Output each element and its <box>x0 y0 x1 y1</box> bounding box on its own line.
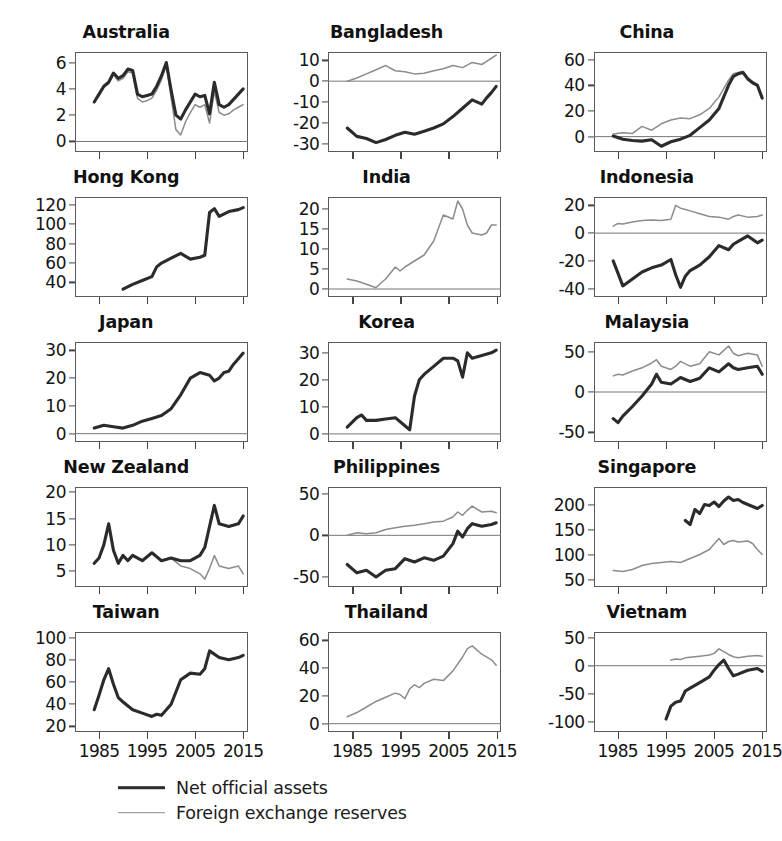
series-net-official-assets-singapore <box>685 497 762 525</box>
ytick-australia-0: 0 <box>56 131 75 151</box>
series-foreign-exchange-reserves-philippines <box>348 506 497 535</box>
xtick-mark-australia-3 <box>243 152 244 159</box>
ytick-australia-2: 4 <box>56 79 75 99</box>
legend-line-swatch-foreign-exchange-reserves <box>118 807 165 818</box>
ytick-taiwan-2: 60 <box>45 672 75 692</box>
panel-malaysia: Malaysia-50050 <box>521 312 781 457</box>
legend-label-net-official-assets: Net official assets <box>176 778 328 798</box>
ytick-japan-0: 0 <box>56 424 75 444</box>
xtick-mark-vietnam-3 <box>762 732 763 739</box>
xtick-mark-korea-0 <box>352 442 353 449</box>
xtick-mark-indonesia-3 <box>762 297 763 304</box>
xtick-mark-singapore-0 <box>618 587 619 594</box>
plot-area-singapore: 50100150200 <box>594 487 767 587</box>
ytick-china-0: 0 <box>574 127 593 147</box>
xtick-mark-malaysia-2 <box>714 442 715 449</box>
plot-area-japan: 0102030 <box>75 342 248 442</box>
ytick-new-zealand-3: 20 <box>45 482 75 502</box>
ytick-hong-kong-2: 80 <box>45 234 75 254</box>
panel-title-bangladesh: Bangladesh <box>260 22 512 42</box>
xtick-mark-australia-0 <box>99 152 100 159</box>
ytick-vietnam-1: -50 <box>558 684 593 704</box>
series-foreign-exchange-reserves-malaysia <box>613 346 762 376</box>
series-foreign-exchange-reserves-indonesia <box>613 205 762 226</box>
xtick-mark-korea-1 <box>400 442 401 449</box>
series-net-official-assets-japan <box>94 353 243 428</box>
ytick-taiwan-3: 80 <box>45 650 75 670</box>
legend-entry-foreign-exchange-reserves: Foreign exchange reserves <box>118 800 538 825</box>
panel-title-taiwan: Taiwan <box>0 602 252 622</box>
x-axis-vietnam: 1985199520052015 <box>594 732 767 772</box>
ytick-bangladesh-2: -10 <box>293 92 328 112</box>
xtick-label-vietnam-3: 2015 <box>742 741 782 761</box>
xtick-mark-india-1 <box>400 297 401 304</box>
panel-vietnam: Vietnam-100-500501985199520052015 <box>521 602 781 747</box>
panel-grid: Australia0246Bangladesh-30-20-10010China… <box>0 22 781 802</box>
series-foreign-exchange-reserves-singapore <box>613 539 762 572</box>
ytick-indonesia-1: -20 <box>558 251 593 271</box>
plot-lines-japan <box>75 342 248 442</box>
xtick-mark-new-zealand-2 <box>195 587 196 594</box>
ytick-hong-kong-3: 100 <box>35 214 75 234</box>
series-net-official-assets-australia <box>94 63 243 120</box>
xtick-mark-indonesia-2 <box>714 297 715 304</box>
xtick-mark-hong-kong-0 <box>99 297 100 304</box>
xtick-mark-philippines-0 <box>352 587 353 594</box>
panel-title-singapore: Singapore <box>521 457 773 477</box>
plot-lines-new-zealand <box>75 487 248 587</box>
plot-area-indonesia: -40-20020 <box>594 197 767 297</box>
xtick-label-thailand-1: 1995 <box>380 741 420 761</box>
ytick-malaysia-1: 0 <box>574 382 593 402</box>
series-net-official-assets-hong-kong <box>123 208 243 290</box>
plot-lines-hong-kong <box>75 197 248 297</box>
panel-title-australia: Australia <box>0 22 252 42</box>
xtick-label-taiwan-3: 2015 <box>223 741 263 761</box>
ytick-singapore-0: 50 <box>564 570 594 590</box>
plot-area-philippines: -50050 <box>328 487 501 587</box>
plot-area-australia: 0246 <box>75 52 248 152</box>
xtick-mark-malaysia-1 <box>666 442 667 449</box>
ytick-japan-2: 20 <box>45 368 75 388</box>
series-net-official-assets-taiwan <box>94 651 243 717</box>
ytick-indonesia-2: 0 <box>574 223 593 243</box>
xtick-mark-thailand-0 <box>352 732 353 739</box>
xtick-label-vietnam-0: 1985 <box>597 741 637 761</box>
xtick-mark-taiwan-1 <box>147 732 148 739</box>
xtick-mark-taiwan-2 <box>195 732 196 739</box>
ytick-japan-1: 10 <box>45 396 75 416</box>
series-foreign-exchange-reserves-china <box>613 71 762 134</box>
ytick-singapore-3: 200 <box>554 495 594 515</box>
panel-title-indonesia: Indonesia <box>521 167 773 187</box>
ytick-china-2: 40 <box>564 75 594 95</box>
xtick-label-vietnam-1: 1995 <box>646 741 686 761</box>
xtick-mark-indonesia-1 <box>666 297 667 304</box>
series-foreign-exchange-reserves-vietnam <box>671 649 762 660</box>
plot-area-thailand: 0204060 <box>328 632 501 732</box>
ytick-australia-1: 2 <box>56 105 75 125</box>
panel-row-5: Taiwan204060801001985199520052015Thailan… <box>0 602 781 802</box>
ytick-philippines-1: 0 <box>309 525 328 545</box>
plot-lines-thailand <box>328 632 501 732</box>
xtick-mark-singapore-3 <box>762 587 763 594</box>
ytick-hong-kong-1: 60 <box>45 253 75 273</box>
series-foreign-exchange-reserves-hong-kong <box>123 208 243 290</box>
panel-title-korea: Korea <box>260 312 512 332</box>
ytick-indonesia-3: 20 <box>564 195 594 215</box>
plot-area-vietnam: -100-50050 <box>594 632 767 732</box>
xtick-mark-vietnam-0 <box>618 732 619 739</box>
ytick-vietnam-2: 0 <box>574 656 593 676</box>
ytick-korea-1: 10 <box>299 397 329 417</box>
xtick-mark-japan-2 <box>195 442 196 449</box>
plot-lines-india <box>328 197 501 297</box>
series-net-official-assets-indonesia <box>613 236 762 287</box>
ytick-korea-3: 30 <box>299 343 329 363</box>
plot-area-china: 0204060 <box>594 52 767 152</box>
plot-lines-korea <box>328 342 501 442</box>
plot-area-new-zealand: 5101520 <box>75 487 248 587</box>
ytick-bangladesh-1: -20 <box>293 113 328 133</box>
legend-line-swatch-net-official-assets <box>118 782 165 793</box>
xtick-label-thailand-2: 2005 <box>428 741 468 761</box>
xtick-label-taiwan-2: 2005 <box>175 741 215 761</box>
panel-row-4: New Zealand5101520Philippines-50050Singa… <box>0 457 781 602</box>
